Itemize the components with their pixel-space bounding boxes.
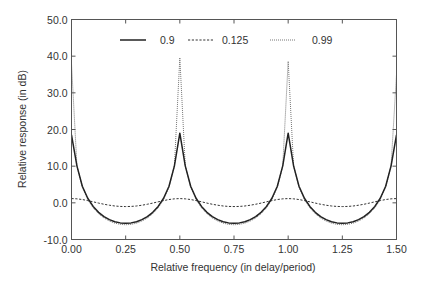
legend-label: 0.99 [312,34,333,46]
comb-filter-response-chart: 0.000.250.500.751.001.251.50-10.00.010.0… [0,0,422,283]
x-tick-label: 1.50 [386,243,407,255]
y-tick-label: 40.0 [47,50,68,62]
y-tick-label: 20.0 [47,124,68,136]
x-tick-label: 1.25 [332,243,353,255]
x-axis-label: Relative frequency (in delay/period) [150,261,315,273]
y-tick-label: 0.0 [53,197,68,209]
ticks-layer: 0.000.250.500.751.001.251.50-10.00.010.0… [44,14,407,255]
legend-item-0-99: 0.99 [270,34,333,46]
series-line-0-9 [72,133,397,223]
y-axis-label: Relative response (in dB) [16,70,28,188]
series-layer [72,58,397,225]
y-tick-label: -10.0 [44,234,68,246]
x-tick-label: 1.00 [278,243,299,255]
legend-item-0-125: 0.125 [188,34,248,46]
series-line-0-125 [72,199,397,207]
legend-label: 0.125 [222,34,248,46]
legend-label: 0.9 [160,34,175,46]
legend-item-0-9: 0.9 [120,34,175,46]
x-tick-label: 0.50 [170,243,191,255]
legend: 0.90.1250.99 [120,34,333,46]
series-line-0-99 [72,58,397,225]
y-tick-label: 30.0 [47,87,68,99]
y-tick-label: 50.0 [47,14,68,26]
y-tick-label: 10.0 [47,160,68,172]
x-tick-label: 0.25 [115,243,136,255]
x-tick-label: 0.75 [224,243,245,255]
